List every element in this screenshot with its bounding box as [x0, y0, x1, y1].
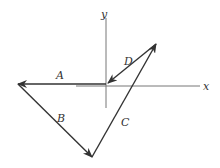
vector-c-label: C	[121, 116, 130, 129]
vector-d-label: D	[123, 55, 133, 68]
vector-a-label: A	[55, 69, 64, 82]
vector-diagram: y x A B C D	[0, 0, 220, 168]
y-axis-label: y	[100, 8, 108, 21]
vector-b-arrow	[18, 84, 92, 157]
x-axis-label: x	[203, 80, 210, 93]
vector-b-label: B	[56, 112, 65, 125]
